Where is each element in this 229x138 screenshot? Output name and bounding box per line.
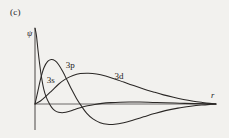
curve-label-3d: 3d [115, 71, 125, 81]
curve-3p [35, 60, 216, 125]
y-axis-label: ψ [27, 28, 33, 38]
plot-area: ψ r 3s 3p 3d [0, 0, 229, 138]
x-axis-label: r [211, 90, 215, 100]
curves-group [35, 28, 216, 125]
curve-label-3p: 3p [66, 60, 76, 70]
curve-label-3s: 3s [47, 75, 56, 85]
axis-labels-group: ψ r [27, 28, 215, 100]
curve-3d [35, 73, 216, 104]
axes-group [35, 28, 216, 130]
orbital-wavefunction-figure: (c) ψ r 3s 3p 3d [0, 0, 229, 138]
